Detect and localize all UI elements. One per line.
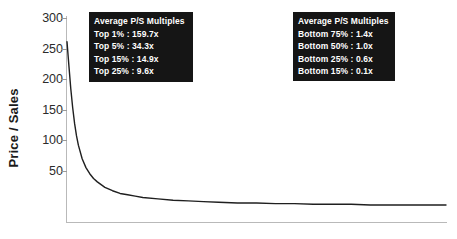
legend-bottom-entry-1: Bottom 75% : 1.4x [298,28,390,41]
legend-bottom-entry-4: Bottom 15% : 0.1x [298,65,390,78]
legend-top-percentiles: Average P/S Multiples Top 1% : 159.7x To… [89,12,193,82]
legend-top-entry-3: Top 15% : 14.9x [94,53,188,66]
legend-bottom-entry-3: Bottom 25% : 0.6x [298,53,390,66]
legend-top-entry-4: Top 25% : 9.6x [94,65,188,78]
legend-top-entry-2: Top 5% : 34.3x [94,40,188,53]
legend-bottom-percentiles: Average P/S Multiples Bottom 75% : 1.4x … [293,12,395,81]
legend-top-title: Average P/S Multiples [94,15,188,28]
legend-bottom-entry-2: Bottom 50% : 1.0x [298,40,390,53]
legend-top-entry-1: Top 1% : 159.7x [94,28,188,41]
legend-bottom-title: Average P/S Multiples [298,15,390,28]
price-sales-chart: Price / Sales 300 250 200 150 100 50 Ave… [0,0,457,239]
